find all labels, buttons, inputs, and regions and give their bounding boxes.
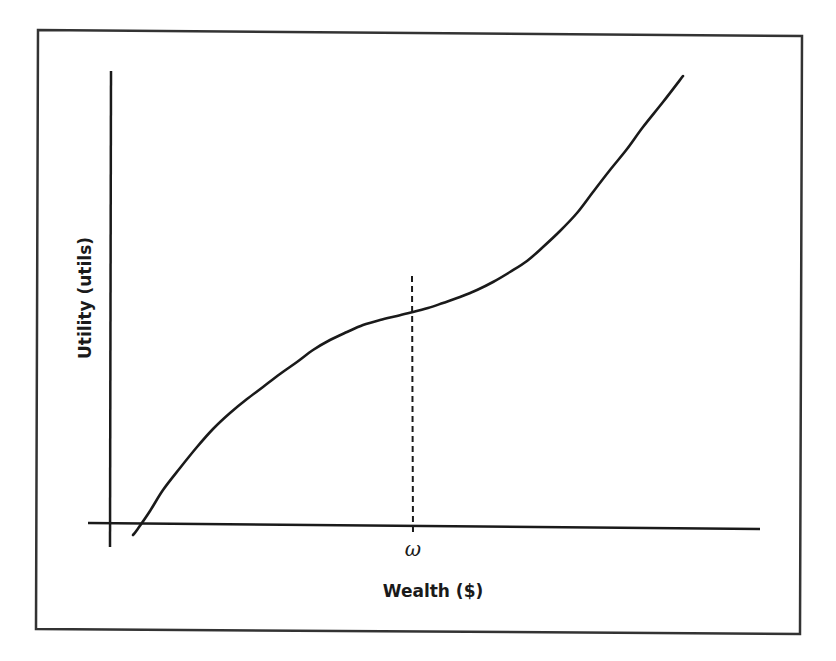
y-axis-label: Utility (utils)	[75, 237, 95, 359]
omega-tick-label: ω	[405, 537, 421, 561]
utility-chart: ω Wealth ($) Utility (utils)	[0, 0, 836, 661]
x-axis	[88, 523, 760, 529]
omega-dashed-line	[412, 276, 413, 535]
x-axis-label: Wealth ($)	[383, 581, 484, 601]
utility-curve	[133, 76, 683, 535]
y-axis	[110, 71, 111, 547]
